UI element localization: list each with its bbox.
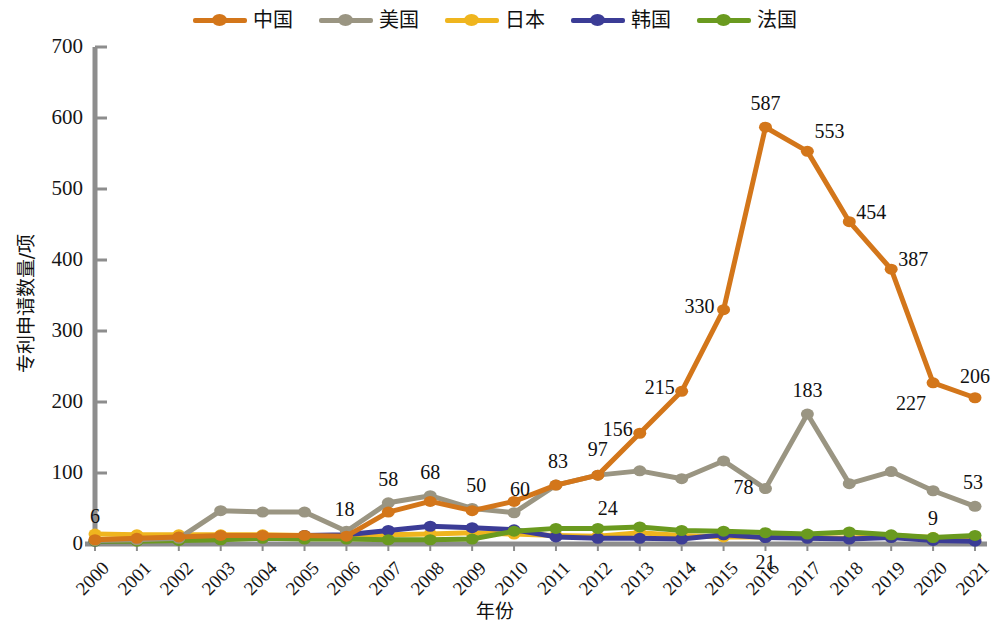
data-point-法国 xyxy=(927,532,940,543)
data-point-美国 xyxy=(256,507,269,518)
y-axis-tick-label: 0 xyxy=(21,533,83,554)
data-point-中国 xyxy=(549,480,562,491)
y-axis-tick-label: 500 xyxy=(21,178,83,199)
data-point-法国 xyxy=(801,529,814,540)
series-line-美国 xyxy=(95,414,975,540)
data-point-中国 xyxy=(298,530,311,541)
data-point-中国 xyxy=(340,531,353,542)
y-axis-tick-label: 300 xyxy=(21,320,83,341)
data-point-label: 9 xyxy=(928,508,938,528)
data-point-中国 xyxy=(256,530,269,541)
data-point-美国 xyxy=(675,473,688,484)
data-point-label: 553 xyxy=(814,121,844,141)
data-point-label: 387 xyxy=(898,249,928,269)
data-point-美国 xyxy=(759,483,772,494)
data-point-美国 xyxy=(633,465,646,476)
y-axis-tick-label: 200 xyxy=(21,391,83,412)
data-point-美国 xyxy=(214,505,227,516)
data-point-法国 xyxy=(885,529,898,540)
data-point-中国 xyxy=(801,146,814,157)
data-point-法国 xyxy=(508,526,521,537)
data-point-label: 58 xyxy=(378,469,398,489)
data-point-label: 587 xyxy=(750,93,780,113)
data-point-法国 xyxy=(969,530,982,541)
data-point-法国 xyxy=(843,526,856,537)
data-point-中国 xyxy=(382,507,395,518)
data-point-中国 xyxy=(214,530,227,541)
data-point-label: 21 xyxy=(755,552,775,572)
data-point-美国 xyxy=(717,455,730,466)
data-point-中国 xyxy=(675,386,688,397)
data-point-法国 xyxy=(759,527,772,538)
data-point-label: 53 xyxy=(963,472,983,492)
data-point-label: 215 xyxy=(645,377,675,397)
data-point-韩国 xyxy=(633,533,646,544)
data-point-label: 330 xyxy=(685,296,715,316)
data-point-label: 50 xyxy=(466,475,486,495)
y-axis-tick-label: 100 xyxy=(21,462,83,483)
data-point-中国 xyxy=(759,122,772,133)
data-point-label: 454 xyxy=(856,202,886,222)
data-point-法国 xyxy=(675,525,688,536)
data-point-美国 xyxy=(508,507,521,518)
data-point-美国 xyxy=(969,501,982,512)
y-axis-title: 专利申请数量/项 xyxy=(11,184,38,424)
data-point-中国 xyxy=(969,392,982,403)
data-point-label: 18 xyxy=(334,499,354,519)
data-point-label: 183 xyxy=(792,380,822,400)
data-point-中国 xyxy=(424,496,437,507)
data-point-法国 xyxy=(466,534,479,545)
data-point-中国 xyxy=(89,534,102,545)
data-point-label: 78 xyxy=(733,477,753,497)
data-point-法国 xyxy=(549,523,562,534)
data-point-韩国 xyxy=(591,533,604,544)
data-point-label: 6 xyxy=(90,506,100,526)
data-point-中国 xyxy=(591,470,604,481)
data-point-label: 24 xyxy=(598,498,618,518)
data-point-label: 97 xyxy=(588,439,608,459)
y-axis-tick-label: 600 xyxy=(21,107,83,128)
data-point-label: 206 xyxy=(960,366,990,386)
data-point-法国 xyxy=(633,521,646,532)
y-axis-tick-label: 700 xyxy=(21,36,83,57)
y-axis-tick-label: 400 xyxy=(21,249,83,270)
data-point-美国 xyxy=(843,478,856,489)
data-point-韩国 xyxy=(466,522,479,533)
data-point-法国 xyxy=(717,526,730,537)
data-point-中国 xyxy=(843,216,856,227)
data-point-中国 xyxy=(717,304,730,315)
data-point-法国 xyxy=(382,534,395,545)
data-point-中国 xyxy=(633,428,646,439)
data-point-美国 xyxy=(927,485,940,496)
data-point-法国 xyxy=(591,523,604,534)
data-point-中国 xyxy=(466,505,479,516)
data-point-美国 xyxy=(885,466,898,477)
data-point-label: 60 xyxy=(510,479,530,499)
data-point-法国 xyxy=(424,534,437,545)
data-point-label: 68 xyxy=(420,462,440,482)
data-point-label: 227 xyxy=(896,393,926,413)
data-point-韩国 xyxy=(424,521,437,532)
data-point-label: 83 xyxy=(548,451,568,471)
data-point-中国 xyxy=(927,377,940,388)
data-point-中国 xyxy=(172,531,185,542)
data-point-美国 xyxy=(801,409,814,420)
data-point-中国 xyxy=(130,533,143,544)
data-point-中国 xyxy=(885,264,898,275)
data-point-label: 156 xyxy=(603,419,633,439)
data-point-美国 xyxy=(298,507,311,518)
